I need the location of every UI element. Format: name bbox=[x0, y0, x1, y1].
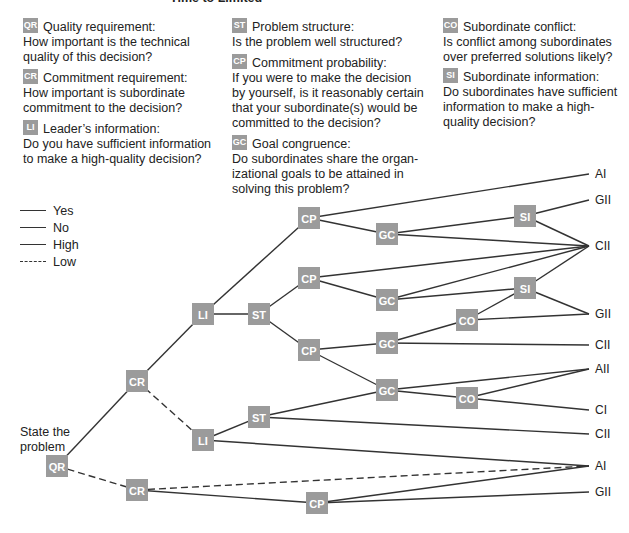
node-label: CP bbox=[301, 345, 316, 357]
node-label: GC bbox=[379, 229, 396, 241]
tree-edge-co1-o4 bbox=[467, 314, 589, 320]
node-cr2: CR bbox=[126, 479, 148, 501]
tree-edge-cp3-gc3 bbox=[309, 343, 387, 350]
node-co2: CO bbox=[456, 387, 478, 409]
outcome-o4: GII bbox=[595, 307, 611, 321]
node-label: LI bbox=[198, 435, 208, 447]
outcome-o5: CII bbox=[595, 338, 610, 352]
node-label: SI bbox=[520, 283, 530, 295]
tree-edge-cp1-o1 bbox=[309, 174, 589, 218]
node-gc4: GC bbox=[376, 379, 398, 401]
tree-edges bbox=[57, 174, 589, 503]
tree-edge-gc3-o5 bbox=[387, 343, 589, 345]
node-cr1: CR bbox=[126, 370, 148, 392]
node-cp3: CP bbox=[298, 339, 320, 361]
tree-edge-gc1-o3 bbox=[387, 234, 589, 246]
node-st2: ST bbox=[248, 406, 270, 428]
node-label: CP bbox=[301, 213, 316, 225]
tree-edge-co2-o6 bbox=[467, 369, 589, 398]
node-li1: LI bbox=[192, 303, 214, 325]
node-label: GC bbox=[379, 385, 396, 397]
outcome-o1: AI bbox=[595, 167, 606, 181]
tree-edge-cp3-gc4 bbox=[309, 350, 387, 390]
node-gc3: GC bbox=[376, 332, 398, 354]
node-st1: ST bbox=[248, 303, 270, 325]
node-label: LI bbox=[198, 309, 208, 321]
tree-edge-cr2-cp4 bbox=[137, 490, 317, 503]
tree-edge-gc4-o6 bbox=[387, 369, 589, 390]
node-label: CO bbox=[459, 393, 476, 405]
tree-edge-gc4-co2 bbox=[387, 390, 467, 398]
node-cp2: CP bbox=[298, 267, 320, 289]
node-co1: CO bbox=[456, 309, 478, 331]
tree-edge-cp2-gc2 bbox=[309, 278, 387, 300]
node-label: ST bbox=[252, 412, 266, 424]
outcome-o2: GII bbox=[595, 193, 611, 207]
tree-edge-co2-o7 bbox=[467, 398, 589, 410]
node-cp4: CP bbox=[306, 492, 328, 514]
tree-edge-gc3-co1 bbox=[387, 320, 467, 343]
node-si2: SI bbox=[514, 277, 536, 299]
node-label: CR bbox=[129, 485, 145, 497]
tree-edge-st2-o8 bbox=[259, 417, 589, 434]
outcome-o8: CII bbox=[595, 427, 610, 441]
node-label: GC bbox=[379, 338, 396, 350]
node-label: CR bbox=[129, 376, 145, 388]
decision-tree: QRCRCRLILISTSTCPCPCPCPGCGCGCGCSISICOCO A… bbox=[0, 0, 629, 533]
node-label: CP bbox=[301, 273, 316, 285]
tree-edge-qr-cr2 bbox=[57, 466, 137, 490]
node-qr: QR bbox=[46, 455, 68, 477]
tree-edge-qr-cr1 bbox=[57, 381, 137, 466]
node-label: CO bbox=[459, 315, 476, 327]
node-gc1: GC bbox=[376, 223, 398, 245]
node-gc2: GC bbox=[376, 289, 398, 311]
node-label: GC bbox=[379, 295, 396, 307]
node-label: SI bbox=[520, 211, 530, 223]
outcome-o10: GII bbox=[595, 485, 611, 499]
tree-edge-cp1-gc1 bbox=[309, 218, 387, 234]
tree-edge-st2-gc4 bbox=[259, 390, 387, 417]
node-label: CP bbox=[309, 498, 324, 510]
node-li2: LI bbox=[192, 429, 214, 451]
tree-edge-gc1-si1 bbox=[387, 216, 525, 234]
node-label: QR bbox=[49, 461, 66, 473]
node-cp1: CP bbox=[298, 207, 320, 229]
outcome-o6: AII bbox=[595, 362, 610, 376]
outcome-o7: CI bbox=[595, 403, 607, 417]
tree-nodes: QRCRCRLILISTSTCPCPCPCPGCGCGCGCSISICOCO bbox=[46, 205, 536, 514]
node-si1: SI bbox=[514, 205, 536, 227]
tree-edge-li1-cp1 bbox=[203, 218, 309, 314]
node-label: ST bbox=[252, 309, 266, 321]
tree-outcomes: AIGIICIIGIICIIAIICICIIAIGII bbox=[595, 167, 611, 499]
tree-edge-li2-o9 bbox=[203, 440, 589, 466]
outcome-o9: AI bbox=[595, 459, 606, 473]
tree-edge-cr2-o9 bbox=[137, 466, 589, 490]
outcome-o3: CII bbox=[595, 239, 610, 253]
